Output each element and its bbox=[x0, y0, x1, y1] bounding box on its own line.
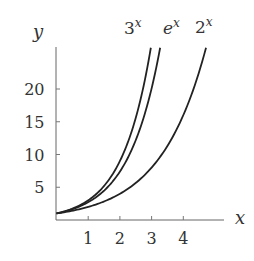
x-tick-label: 2 bbox=[115, 229, 125, 248]
x-tick-label: 1 bbox=[83, 229, 93, 248]
y-axis-label: y bbox=[32, 21, 44, 42]
curve-label-e: ex bbox=[163, 16, 180, 38]
curve-3 bbox=[57, 48, 151, 214]
curve-labels: 3xex2x bbox=[124, 15, 213, 38]
curve-label-3: 3x bbox=[124, 16, 142, 38]
exponential-functions-chart: 1234 5101520 y x 3xex2x bbox=[0, 0, 254, 261]
x-axis-label: x bbox=[235, 207, 245, 228]
x-ticks: 1234 bbox=[83, 216, 188, 248]
y-tick-label: 15 bbox=[24, 113, 44, 132]
y-tick-label: 5 bbox=[34, 178, 44, 197]
curve-e bbox=[57, 48, 161, 214]
x-tick-label: 3 bbox=[147, 229, 157, 248]
curves bbox=[57, 48, 207, 214]
curve-label-2: 2x bbox=[195, 15, 213, 37]
y-ticks: 5101520 bbox=[24, 80, 60, 197]
x-tick-label: 4 bbox=[178, 229, 188, 248]
y-tick-label: 10 bbox=[24, 146, 44, 165]
y-tick-label: 20 bbox=[24, 80, 44, 99]
